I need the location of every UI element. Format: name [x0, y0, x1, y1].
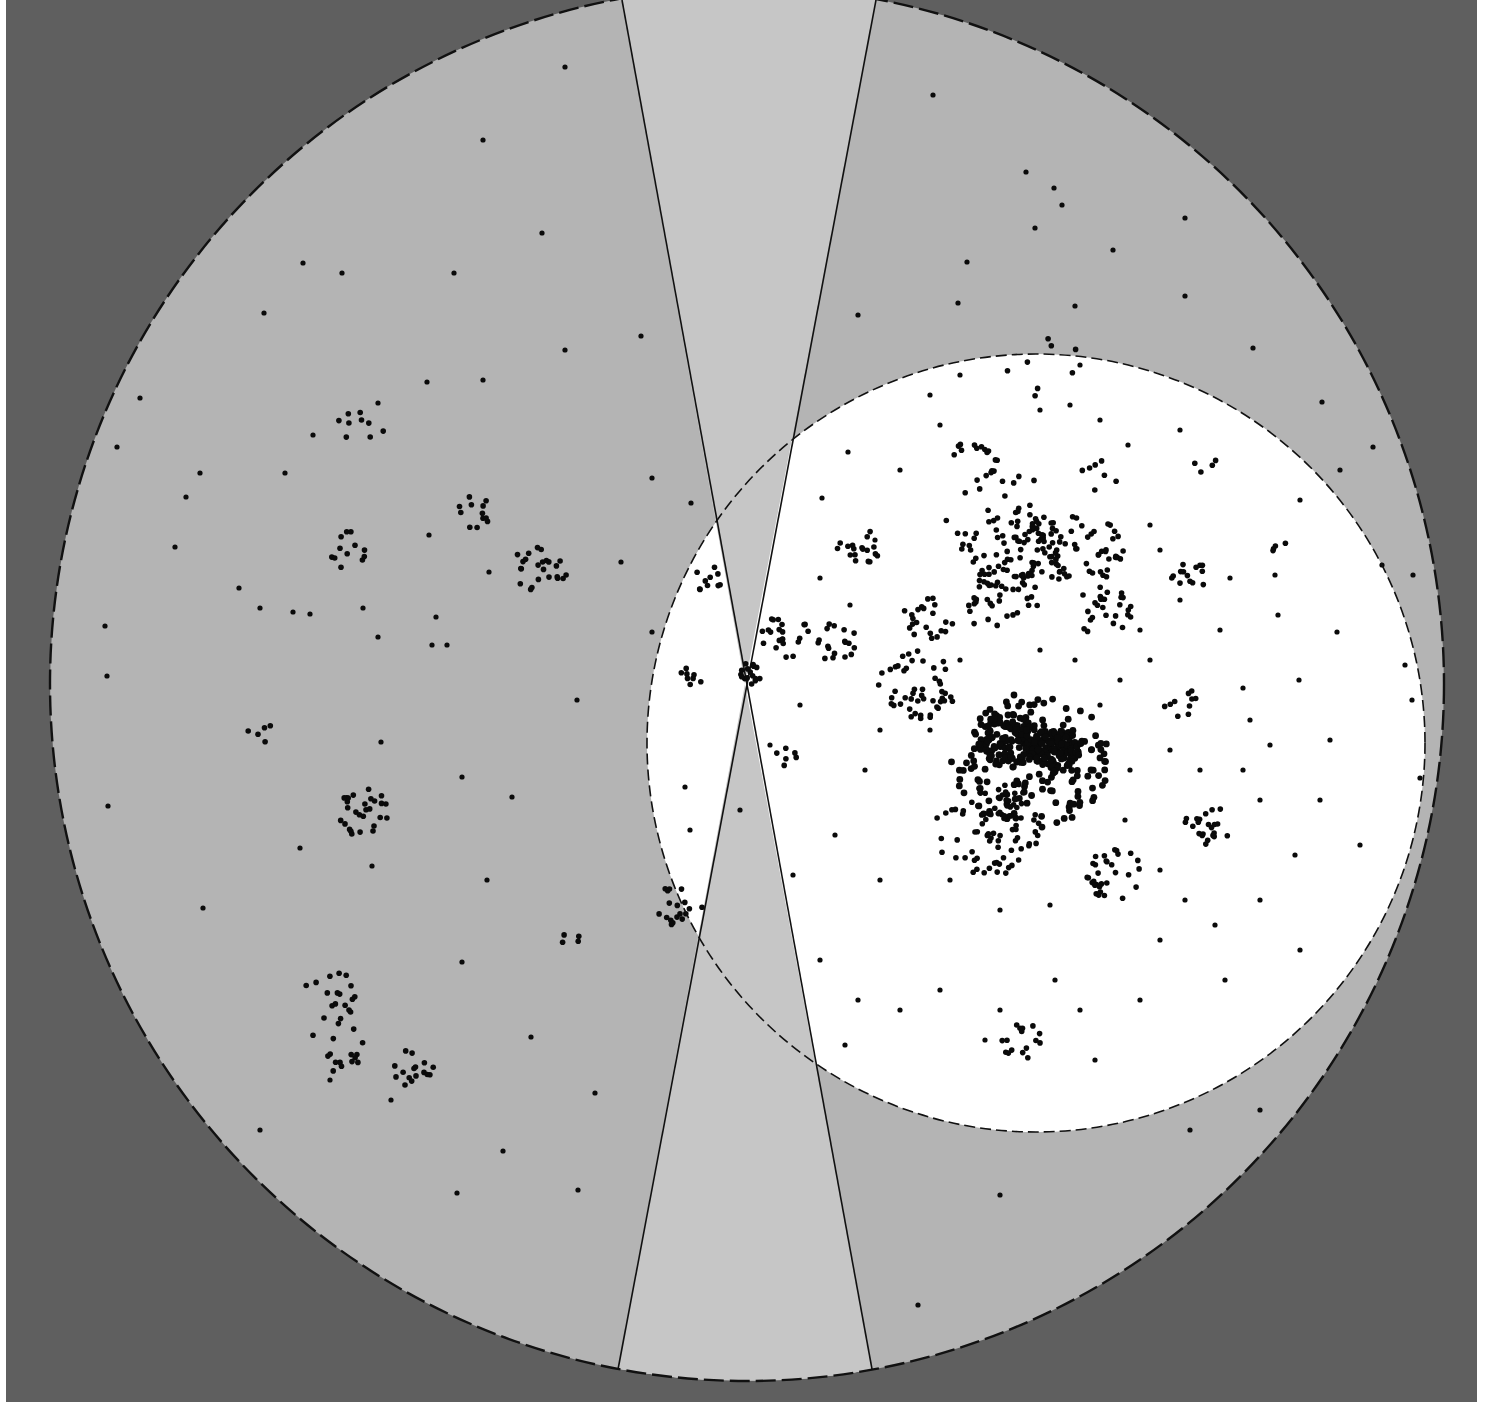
galaxy-dot — [1069, 778, 1076, 785]
galaxy-dot — [183, 494, 188, 499]
galaxy-dot — [638, 333, 643, 338]
galaxy-dot — [960, 767, 967, 774]
galaxy-dot — [684, 671, 690, 677]
galaxy-dot — [1090, 615, 1096, 621]
galaxy-dot — [1058, 741, 1065, 748]
galaxy-dot — [380, 428, 386, 434]
galaxy-dot — [1036, 821, 1042, 827]
galaxy-dot — [1032, 812, 1038, 818]
galaxy-dot — [889, 695, 895, 701]
galaxy-dot — [929, 636, 935, 642]
galaxy-dot — [1088, 767, 1095, 774]
galaxy-dot — [1017, 715, 1024, 722]
galaxy-dot — [879, 670, 885, 676]
galaxy-dot — [1029, 573, 1035, 579]
galaxy-dot — [1052, 977, 1057, 982]
galaxy-dot — [943, 666, 949, 672]
galaxy-dot — [1053, 550, 1059, 556]
galaxy-dot — [1089, 785, 1096, 792]
galaxy-dot — [1057, 749, 1064, 756]
galaxy-dot — [518, 581, 524, 587]
galaxy-dot — [1022, 532, 1028, 538]
galaxy-dot — [1100, 605, 1106, 611]
galaxy-dot — [999, 1038, 1005, 1044]
galaxy-dot — [575, 938, 581, 944]
galaxy-dot — [257, 605, 262, 610]
galaxy-dot — [261, 310, 266, 315]
galaxy-dot — [1051, 749, 1058, 756]
galaxy-dot — [985, 723, 992, 730]
galaxy-dot — [781, 763, 787, 769]
galaxy-dot — [697, 586, 703, 592]
galaxy-dot — [336, 418, 342, 424]
galaxy-dot — [257, 1127, 262, 1132]
galaxy-dot — [1085, 534, 1091, 540]
galaxy-dot — [424, 379, 429, 384]
galaxy-dot — [997, 810, 1003, 816]
galaxy-dot — [430, 1064, 436, 1070]
galaxy-dot — [1051, 185, 1056, 190]
galaxy-dot — [1009, 520, 1015, 526]
galaxy-dot — [1102, 893, 1108, 899]
galaxy-dot — [1012, 790, 1018, 796]
galaxy-dot — [1069, 814, 1076, 821]
galaxy-dot — [409, 1050, 415, 1056]
galaxy-dot — [338, 1016, 344, 1022]
galaxy-dot — [1109, 862, 1115, 868]
galaxy-dot — [768, 629, 774, 635]
galaxy-dot — [1020, 572, 1026, 578]
galaxy-dot — [985, 508, 991, 514]
galaxy-dot — [362, 547, 368, 553]
galaxy-dot — [972, 858, 978, 864]
galaxy-dot — [1120, 548, 1126, 554]
galaxy-dot — [1103, 612, 1109, 618]
galaxy-dot — [1120, 895, 1126, 901]
galaxy-dot — [1120, 595, 1126, 601]
galaxy-dot — [1031, 478, 1037, 484]
galaxy-dot — [1033, 755, 1040, 762]
galaxy-dot — [1113, 870, 1119, 876]
galaxy-dot — [675, 903, 681, 909]
galaxy-dot — [1104, 574, 1110, 580]
galaxy-dot — [1004, 613, 1010, 619]
galaxy-dot — [947, 877, 952, 882]
galaxy-dot — [966, 603, 972, 609]
galaxy-dot — [776, 617, 782, 623]
galaxy-dot — [557, 558, 563, 564]
galaxy-dot — [774, 750, 780, 756]
galaxy-dot — [985, 617, 991, 623]
galaxy-dot — [932, 602, 938, 608]
galaxy-dot — [1017, 555, 1023, 561]
galaxy-dot — [1004, 549, 1010, 555]
galaxy-dot — [384, 815, 390, 821]
galaxy-dot — [1070, 727, 1077, 734]
galaxy-dot — [515, 552, 521, 558]
galaxy-dot — [997, 861, 1003, 867]
galaxy-dot — [955, 300, 960, 305]
galaxy-dot — [842, 654, 848, 660]
galaxy-dot — [944, 518, 950, 524]
galaxy-dot — [1182, 293, 1187, 298]
galaxy-dot — [923, 624, 929, 630]
galaxy-dot — [715, 571, 721, 577]
galaxy-dot — [1052, 799, 1059, 806]
galaxy-dot — [536, 577, 542, 583]
galaxy-dot — [486, 569, 491, 574]
galaxy-dot — [973, 599, 979, 605]
galaxy-dot — [1033, 829, 1039, 835]
galaxy-dot — [920, 687, 926, 693]
galaxy-dot — [1118, 556, 1124, 562]
galaxy-dot — [667, 900, 673, 906]
galaxy-dot — [357, 829, 363, 835]
galaxy-dot — [459, 959, 464, 964]
galaxy-dot — [749, 681, 755, 687]
galaxy-dot — [1210, 462, 1216, 468]
galaxy-dot — [236, 585, 241, 590]
galaxy-dot — [683, 666, 689, 672]
galaxy-dot — [1137, 997, 1142, 1002]
galaxy-dot — [327, 1077, 332, 1082]
galaxy-dot — [346, 411, 352, 417]
galaxy-dot — [444, 642, 449, 647]
galaxy-dot — [927, 715, 933, 721]
galaxy-dot — [378, 739, 383, 744]
